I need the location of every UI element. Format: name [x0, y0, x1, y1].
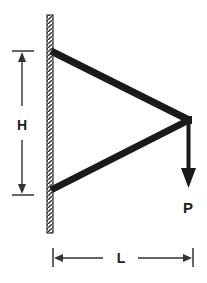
load-arrow	[181, 120, 196, 188]
truss-diagram: P H L	[0, 0, 207, 283]
height-label: H	[17, 117, 27, 133]
lower-member	[51, 120, 189, 190]
wall	[47, 15, 53, 233]
upper-member	[51, 51, 189, 120]
length-label: L	[117, 250, 126, 266]
load-label: P	[183, 199, 193, 216]
